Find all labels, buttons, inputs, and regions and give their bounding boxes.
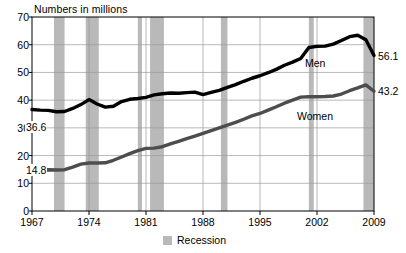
y-axis-tick-label: 40 xyxy=(5,95,29,105)
chart-axis-title: Numbers in millions xyxy=(34,3,128,15)
y-axis-tick-label: 0 xyxy=(5,206,29,216)
recession-band xyxy=(150,17,164,211)
x-axis-tick-label: 1988 xyxy=(183,216,223,228)
x-axis-tick-label: 1995 xyxy=(240,216,280,228)
y-axis-tick-label: 10 xyxy=(5,178,29,188)
end-value-men: 56.1 xyxy=(378,50,398,62)
x-axis-tick-label: 1981 xyxy=(126,216,166,228)
x-axis-tick-label: 2002 xyxy=(297,216,337,228)
series-label-men: Men xyxy=(305,57,325,69)
end-value-women: 43.2 xyxy=(378,85,398,97)
x-axis-tick-label: 2009 xyxy=(354,216,394,228)
x-axis-tick-label: 1967 xyxy=(12,216,52,228)
y-axis-tick-label: 70 xyxy=(5,12,29,22)
recession-band xyxy=(86,17,99,211)
chart-container: Numbers in millions 706050403020100 1967… xyxy=(0,0,406,253)
recession-band xyxy=(138,17,142,211)
start-value-women: 14.8 xyxy=(25,164,47,176)
chart-legend: Recession xyxy=(163,234,226,246)
y-axis-tick-label: 60 xyxy=(5,40,29,50)
start-value-men: 36.6 xyxy=(25,121,47,133)
x-axis-tick-label: 1974 xyxy=(69,216,109,228)
recession-swatch-icon xyxy=(163,236,172,245)
y-axis-tick-label: 50 xyxy=(5,67,29,77)
recession-band xyxy=(221,17,228,211)
series-label-women: Women xyxy=(297,110,333,122)
y-axis-tick-label: 20 xyxy=(5,151,29,161)
recession-band xyxy=(54,17,65,211)
legend-label-recession: Recession xyxy=(177,234,226,246)
